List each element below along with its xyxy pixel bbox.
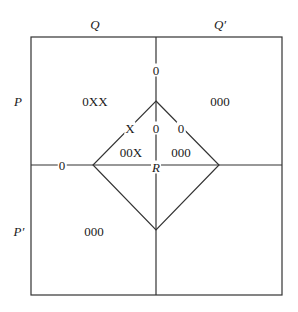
region-top-left: 0XX xyxy=(82,95,107,108)
row-label-p: P xyxy=(14,95,22,108)
region-diamond-upper-right: 000 xyxy=(171,146,191,159)
mark-diamond-center-vertical: 0 xyxy=(152,122,161,135)
center-label-r: R xyxy=(151,161,161,174)
column-label-q: Q xyxy=(90,18,99,31)
mark-diamond-upper-left-edge: X xyxy=(124,122,135,135)
mark-diamond-upper-right-edge: 0 xyxy=(177,122,186,135)
row-label-p-prime: P′ xyxy=(14,225,25,238)
mark-top-vertical: 0 xyxy=(152,64,161,77)
mark-left-horizontal: 0 xyxy=(58,159,67,172)
region-bottom-left: 000 xyxy=(84,225,104,238)
venn-diagram-lines xyxy=(0,0,298,312)
column-label-q-prime: Q′ xyxy=(214,18,226,31)
region-diamond-upper-left: 00X xyxy=(120,146,142,159)
region-top-right: 000 xyxy=(210,95,230,108)
